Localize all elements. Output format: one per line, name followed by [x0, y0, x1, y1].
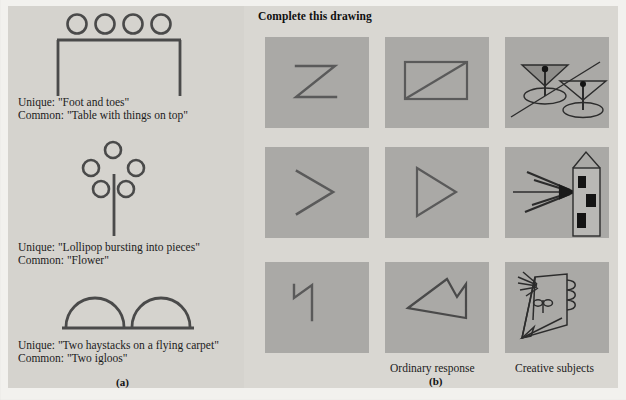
caption-common-1: Common: "Table with things on top" [18, 109, 188, 123]
cell-stimulus-row2 [265, 147, 369, 238]
cell-creative-row2 [505, 147, 609, 238]
caption-unique-1: Unique: "Foot and toes" [18, 96, 129, 110]
cell-stimulus-row1 [265, 37, 369, 128]
cell-ordinary-row2 [385, 147, 489, 238]
cell-creative-row1 [505, 37, 609, 128]
cell-creative-row3 [505, 262, 609, 353]
column-label-ordinary: Ordinary response [390, 362, 475, 374]
caption-unique-3: Unique: "Two haystacks on a flying carpe… [18, 339, 219, 353]
cell-stimulus-row3 [265, 262, 369, 353]
column-label-creative: Creative subjects [515, 362, 594, 374]
figure-page: Complete this drawing [0, 0, 626, 400]
caption-unique-2: Unique: "Lollipop bursting into pieces" [18, 241, 200, 255]
panel-b-heading: Complete this drawing [258, 10, 372, 22]
caption-common-2: Common: "Flower" [18, 254, 109, 268]
panel-b-label: (b) [429, 375, 442, 387]
cell-ordinary-row3 [385, 262, 489, 353]
panel-a-label: (a) [116, 376, 129, 388]
panel-a [8, 6, 244, 388]
cell-ordinary-row1 [385, 37, 489, 128]
caption-common-3: Common: "Two igloos" [18, 352, 128, 366]
